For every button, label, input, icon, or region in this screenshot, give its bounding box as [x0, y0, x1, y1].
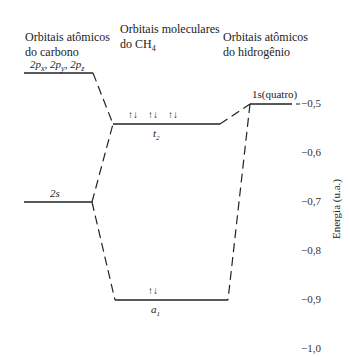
carbon-orbitals-header: Orbitais atômicos do carbono [25, 30, 110, 60]
connector-1s-a1 [228, 104, 250, 300]
hydrogen-orbitals-header: Orbitais atômicos do hidrogênio [223, 30, 308, 60]
connector-2s-a1 [92, 202, 115, 300]
tick-label: −0,7 [301, 195, 321, 207]
a1-electrons: ↑↓ [148, 285, 158, 296]
c-2s-label: 2s [50, 187, 60, 199]
c-2p-label: 2px, 2py, 2pz [30, 58, 84, 73]
t2-electrons: ↑↓↑↓↑↓ [128, 109, 178, 120]
connector-t2-1s [220, 104, 250, 124]
tick-label: −0,5 [301, 97, 321, 109]
tick-label: −0,8 [301, 244, 321, 256]
a1-label: a1 [151, 303, 160, 318]
connector-2p-t2 [93, 73, 113, 124]
tick-label: −1,0 [301, 342, 321, 354]
energy-axis-label: Energia (u.a.) [330, 169, 342, 249]
h-1s-label: 1s(quatro) [252, 88, 297, 100]
molecular-orbitals-header: Orbitais moleculares do CH4 [120, 22, 220, 56]
connector-2s-t2 [92, 124, 113, 202]
tick-label: −0,6 [301, 146, 321, 158]
t2-label: t2 [153, 127, 160, 142]
tick-label: −0,9 [301, 293, 321, 305]
